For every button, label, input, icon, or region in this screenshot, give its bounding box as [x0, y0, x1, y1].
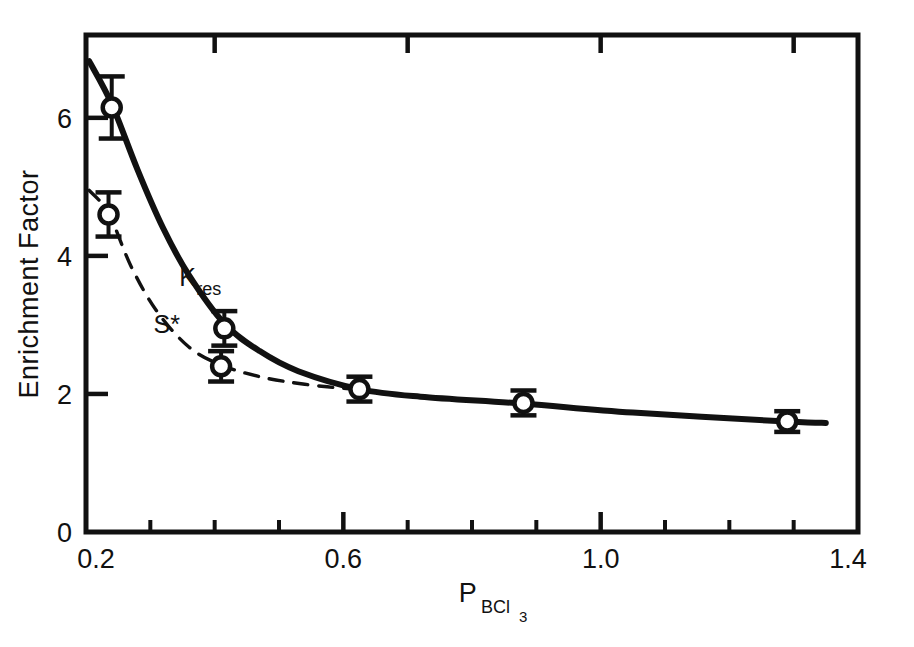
x-axis-label-subscript-number: 3 [519, 608, 527, 625]
x-axis-label-subscript: BCl [481, 597, 510, 617]
data-point-marker [514, 394, 532, 412]
data-point-marker [215, 319, 233, 337]
data-point-marker [778, 413, 796, 431]
series-error-bars [96, 76, 801, 431]
y-axis-tick-labels: 0246 [57, 104, 72, 548]
curve-kres [89, 61, 826, 423]
kres-label-base: K [179, 263, 196, 291]
series-label-kres: K res [179, 263, 221, 299]
series-label-sstar: S* [154, 310, 181, 338]
kres-label-subscript: res [196, 279, 221, 299]
data-point-marker [103, 98, 121, 116]
enrichment-factor-chart: 0.20.61.01.4 0246 Enrichment Factor P BC… [0, 0, 914, 647]
series-markers [100, 98, 797, 430]
y-tick-label: 2 [57, 380, 72, 410]
sstar-label: S* [154, 310, 181, 338]
x-axis-label: P BCl 3 [459, 578, 528, 625]
y-axis-ticks [86, 118, 108, 394]
data-point-marker [350, 380, 368, 398]
x-tick-label: 1.0 [582, 544, 620, 574]
x-tick-label: 1.4 [829, 544, 867, 574]
x-axis-tick-labels: 0.20.61.01.4 [77, 544, 867, 574]
y-tick-label: 0 [57, 518, 72, 548]
y-axis-label-text: Enrichment Factor [14, 169, 44, 398]
y-tick-label: 6 [57, 104, 72, 134]
x-tick-label: 0.2 [77, 544, 115, 574]
data-point-marker [212, 357, 230, 375]
y-tick-label: 4 [57, 242, 72, 272]
y-axis-label: Enrichment Factor [14, 169, 44, 398]
series-curves [89, 61, 826, 423]
x-tick-label: 0.6 [325, 544, 363, 574]
x-axis-top-ticks [215, 35, 794, 53]
data-point-marker [100, 205, 118, 223]
x-axis-label-base: P [459, 578, 478, 608]
figure-page: 0.20.61.01.4 0246 Enrichment Factor P BC… [0, 0, 914, 647]
